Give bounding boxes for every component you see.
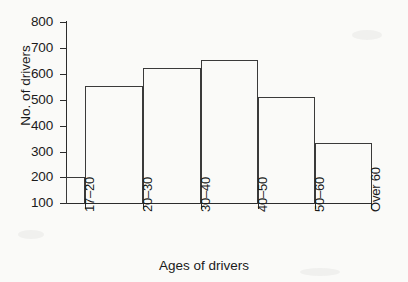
x-axis-label-50-60: 50–60: [312, 136, 327, 212]
x-axis-label-over-60: Over 60: [368, 136, 383, 212]
x-axis-title: Ages of drivers: [0, 258, 408, 273]
x-axis-label-20-30: 20–30: [140, 136, 155, 212]
x-axis-label-17-20: 17–20: [82, 136, 97, 212]
histogram-chart: 800 700 600 500 400 300 200 100 No. of d…: [0, 0, 408, 282]
x-axis-label-40-50: 40–50: [255, 136, 270, 212]
x-axis-label-30-40: 30–40: [198, 136, 213, 212]
